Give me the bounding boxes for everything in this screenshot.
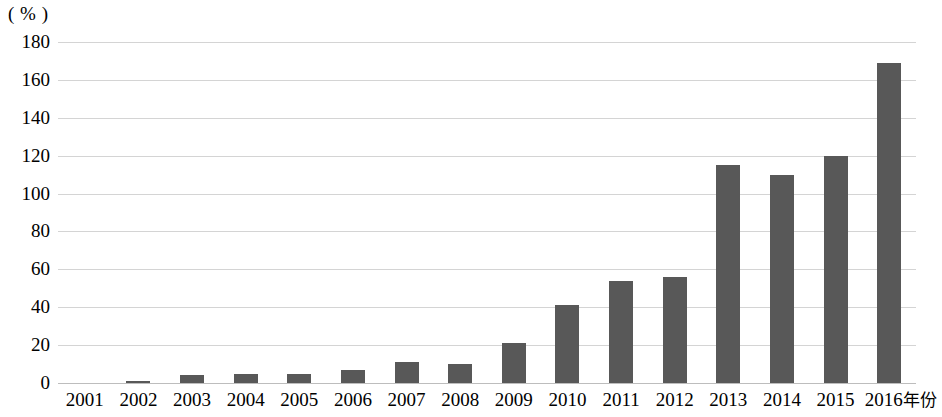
x-axis-tick-label: 2003: [173, 388, 211, 412]
y-axis-unit-label: ( % ): [8, 4, 48, 24]
bar-slot: [326, 42, 380, 383]
y-axis-tick-label: 100: [0, 184, 50, 203]
x-axis-tick-label: 2002: [119, 388, 157, 412]
bar: [502, 343, 526, 383]
bar: [341, 370, 365, 383]
bar-slot: [755, 42, 809, 383]
bar-slot: [648, 42, 702, 383]
x-axis-tick-label: 2011: [602, 388, 639, 412]
x-axis-tick-label: 2008: [441, 388, 479, 412]
bar-slot: [219, 42, 273, 383]
bar-slot: [594, 42, 648, 383]
bar-slot: [380, 42, 434, 383]
y-axis-tick-label: 80: [0, 221, 50, 240]
bar: [287, 374, 311, 383]
y-axis-tick-label: 120: [0, 146, 50, 165]
bar: [824, 156, 848, 383]
bar: [877, 63, 901, 383]
x-axis-tick-label: 2010: [548, 388, 586, 412]
bar-chart: ( % ) 020406080100120140160180 200120022…: [0, 0, 942, 417]
x-axis-tick-label: 2013: [709, 388, 747, 412]
bars-layer: [58, 42, 916, 383]
bar: [234, 374, 258, 383]
y-axis-tick-label: 160: [0, 70, 50, 89]
bar-slot: [58, 42, 112, 383]
bar: [663, 277, 687, 383]
x-axis-tick-labels: 2001200220032004200520062007200820092010…: [58, 388, 942, 416]
bar-slot: [541, 42, 595, 383]
x-axis-tick-label: 2007: [388, 388, 426, 412]
bar: [770, 175, 794, 383]
x-axis-tick-label: 2015: [817, 388, 855, 412]
bar-slot: [273, 42, 327, 383]
y-axis-tick-label: 60: [0, 259, 50, 278]
bar: [448, 364, 472, 383]
y-axis-tick-labels: 020406080100120140160180: [0, 42, 50, 383]
x-axis-tick-label: 2009: [495, 388, 533, 412]
bar-slot: [809, 42, 863, 383]
bar-slot: [165, 42, 219, 383]
x-axis-tick-label: 2014: [763, 388, 801, 412]
bar-slot: [433, 42, 487, 383]
bar: [395, 362, 419, 383]
y-axis-tick-label: 20: [0, 335, 50, 354]
x-axis-tick-label: 2004: [227, 388, 265, 412]
x-axis-tick-label: 2001: [66, 388, 104, 412]
y-axis-tick-label: 0: [0, 373, 50, 392]
x-axis-tick-label: 2005: [280, 388, 318, 412]
gridline: [58, 383, 916, 384]
bar: [126, 381, 150, 383]
y-axis-tick-label: 40: [0, 297, 50, 316]
bar-slot: [487, 42, 541, 383]
bar-slot: [702, 42, 756, 383]
bar: [609, 281, 633, 383]
bar: [555, 305, 579, 383]
x-axis-name-label: 年份: [903, 390, 937, 410]
x-axis-tick-label: 2006: [334, 388, 372, 412]
x-axis-tick-label: 2012: [656, 388, 694, 412]
y-axis-tick-label: 140: [0, 108, 50, 127]
x-axis-tick-label: 2016年份: [865, 388, 937, 412]
y-axis-tick-label: 180: [0, 32, 50, 51]
bar: [180, 375, 204, 383]
bar: [716, 165, 740, 383]
bar-slot: [862, 42, 916, 383]
bar-slot: [112, 42, 166, 383]
